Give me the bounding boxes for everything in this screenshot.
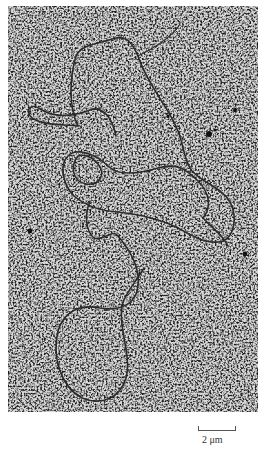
scale-bar	[198, 426, 236, 431]
scale-bar-label: 2 μm	[202, 434, 223, 445]
micrograph-image	[8, 6, 258, 412]
micrograph-texture	[8, 6, 258, 412]
